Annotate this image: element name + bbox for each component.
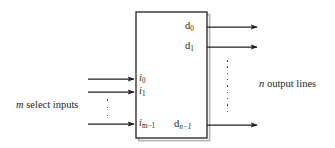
output-ellipsis-icon: [226, 60, 229, 112]
input-port-label-i1: i1: [139, 86, 146, 97]
output-port-sub-d0: 0: [190, 25, 194, 33]
multiplexer-block-diagram: i0 i1 im−1 d0 d1 dn−1 m select inputs n …: [0, 0, 335, 148]
input-ellipsis-icon: [106, 99, 109, 116]
select-inputs-caption: m select inputs: [16, 100, 78, 111]
output-port-label-dn1: dn−1: [174, 119, 191, 130]
output-lines-caption: n output lines: [259, 79, 316, 90]
output-port-sub-d1: 1: [190, 45, 194, 53]
input-port-sub-i0: 0: [142, 77, 146, 85]
input-port-label-i0: i0: [139, 73, 146, 84]
output-lines-caption-text: output lines: [264, 78, 316, 89]
output-port-label-d1: d1: [185, 41, 194, 52]
select-inputs-caption-text: select inputs: [24, 99, 79, 110]
input-port-sub-im1: m−1: [142, 122, 155, 130]
select-inputs-caption-symbol: m: [16, 99, 24, 110]
input-port-label-im1: im−1: [139, 118, 155, 129]
output-port-sub-dn1: n−1: [179, 123, 191, 131]
input-port-sub-i1: 1: [142, 90, 146, 98]
output-port-label-d0: d0: [185, 21, 194, 32]
diagram-canvas: [0, 0, 335, 148]
